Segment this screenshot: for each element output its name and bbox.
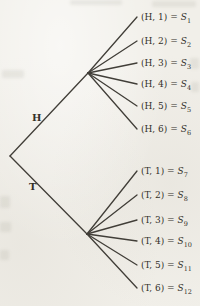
- outcome-pair: (H, 4) =: [141, 79, 178, 89]
- leaf-label: (T, 3) =S9: [141, 214, 188, 230]
- state-subscript: 1: [187, 17, 191, 25]
- outcome-pair: (T, 1) =: [141, 166, 175, 176]
- state-subscript: 3: [187, 63, 191, 71]
- outcome-pair: (T, 4) =: [141, 236, 175, 246]
- leaf-label: (T, 5) =S11: [141, 259, 192, 275]
- state-subscript: 10: [184, 241, 192, 249]
- state-subscript: 8: [184, 195, 188, 203]
- leaf-label: (H, 3) =S3: [141, 57, 191, 73]
- outcome-pair: (H, 1) =: [141, 12, 178, 22]
- state-subscript: 4: [187, 84, 191, 92]
- branch-label-heads: H: [32, 112, 42, 123]
- outcome-pair: (H, 6) =: [141, 124, 178, 134]
- outcome-pair: (T, 5) =: [141, 260, 175, 270]
- outcome-pair: (T, 2) =: [141, 190, 175, 200]
- branch-label-tails: T: [29, 181, 37, 192]
- state-subscript: 12: [184, 288, 192, 296]
- leaf-label: (H, 2) =S2: [141, 35, 191, 51]
- state-subscript: 7: [184, 171, 188, 179]
- leaf-label: (H, 6) =S6: [141, 123, 191, 139]
- leaf-label: (H, 4) =S4: [141, 78, 191, 94]
- outcome-pair: (H, 2) =: [141, 36, 178, 46]
- outcome-pair: (H, 5) =: [141, 101, 178, 111]
- outcome-pair: (H, 3) =: [141, 58, 178, 68]
- leaf-label: (T, 2) =S8: [141, 189, 188, 205]
- leaf-label: (T, 6) =S12: [141, 282, 192, 298]
- outcome-pair: (T, 6) =: [141, 283, 175, 293]
- leaf-label: (H, 1) =S1: [141, 11, 191, 27]
- leaf-label: (H, 5) =S5: [141, 100, 191, 116]
- state-subscript: 11: [184, 265, 192, 273]
- state-subscript: 6: [187, 129, 191, 137]
- tree-diagram-figure: H T (H, 1) =S1(H, 2) =S2(H, 3) =S3(H, 4)…: [0, 0, 200, 306]
- leaf-label: (T, 4) =S10: [141, 235, 192, 251]
- state-subscript: 5: [187, 106, 191, 114]
- state-subscript: 2: [187, 41, 191, 49]
- leaf-label: (T, 1) =S7: [141, 165, 188, 181]
- outcome-pair: (T, 3) =: [141, 215, 175, 225]
- state-subscript: 9: [184, 220, 188, 228]
